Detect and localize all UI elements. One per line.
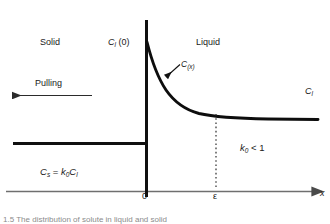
bulk-liquid-concentration-label: Cl <box>305 87 313 98</box>
curve-label-subscript: (x) <box>187 63 195 70</box>
solid-composition-equals: = <box>50 166 61 177</box>
axis-tick-label-epsilon: ε <box>213 192 217 201</box>
interface-concentration-label: Cl (0) <box>108 38 129 49</box>
curve-label-leader-arrow <box>166 65 180 78</box>
solid-composition-cl-subscript: l <box>76 171 77 178</box>
figure-caption: 1.5 The distribution of solute in liquid… <box>3 215 167 224</box>
partition-coefficient-condition: k0 < 1 <box>240 143 265 155</box>
interface-concentration-argument: (0) <box>116 37 130 47</box>
region-label-solid: Solid <box>40 38 60 47</box>
solid-composition-cs-symbol: C <box>40 166 47 177</box>
axis-tick-label-origin: 0 <box>142 192 147 201</box>
partition-coefficient-relation: < 1 <box>248 142 264 153</box>
concentration-curve <box>147 42 318 120</box>
x-axis-label: x <box>320 189 325 198</box>
curve-label: C(x) <box>181 60 195 71</box>
figure-canvas <box>0 0 330 224</box>
region-label-liquid: Liquid <box>196 38 220 47</box>
pulling-label: Pulling <box>35 79 62 88</box>
bulk-liquid-subscript: l <box>312 90 313 97</box>
figure-container: Solid Liquid Pulling Cl (0) C(x) Cl k0 <… <box>0 0 330 224</box>
solid-composition-equation: Cs = k0Cl <box>40 167 78 179</box>
